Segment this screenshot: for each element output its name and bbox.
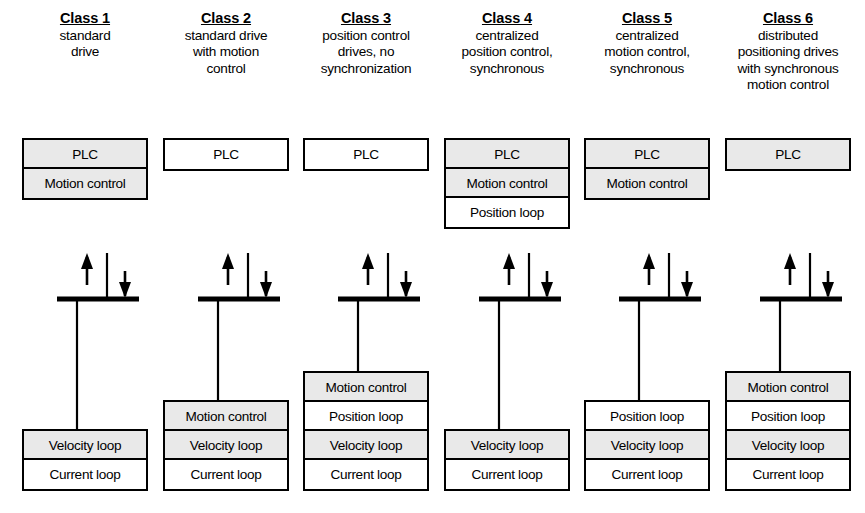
class-3-description-line: drives, no (296, 44, 436, 61)
up-arrow-head (784, 253, 796, 269)
class-1-top-stack-cell: Motion control (24, 169, 146, 198)
down-arrow-head (119, 282, 131, 298)
class-6-description: distributedpositioning driveswith synchr… (718, 28, 858, 94)
class-3-description-line: position control (296, 28, 436, 45)
class-4-bottom-stack-cell: Velocity loop (446, 431, 568, 460)
class-1-description-line: drive (15, 44, 155, 61)
class-1-bottom-stack: Velocity loopCurrent loop (22, 429, 148, 491)
class-5-description-line: synchronous (577, 61, 717, 78)
up-arrow-head (643, 253, 655, 269)
class-2-description-line: with motion (156, 44, 296, 61)
class-5-top-stack-cell: PLC (586, 140, 708, 169)
class-1-description: standarddrive (15, 28, 155, 61)
class-1-header: Class 1standarddrive (15, 10, 155, 61)
class-6-header: Class 6distributedpositioning driveswith… (718, 10, 858, 94)
class-4-description-line: centralized (437, 28, 577, 45)
class-2-header: Class 2standard drivewith motioncontrol (156, 10, 296, 77)
class-6-top-stack-cell: PLC (727, 140, 849, 169)
down-arrow-head (822, 282, 834, 298)
class-6-description-line: with synchronous (718, 61, 858, 78)
down-arrow-head (260, 282, 272, 298)
class-4-bottom-stack-cell: Current loop (446, 460, 568, 489)
class-2-fieldbus-connection-symbol (163, 253, 289, 363)
class-2-top-stack-cell: PLC (165, 140, 287, 169)
class-1-description-line: standard (15, 28, 155, 45)
class-1-top-stack: PLCMotion control (22, 138, 148, 200)
class-4-top-stack: PLCMotion controlPosition loop (444, 138, 570, 229)
class-2-bottom-stack-cell: Current loop (165, 460, 287, 489)
class-6-bottom-stack-cell: Current loop (727, 460, 849, 489)
class-3-bottom-stack-cell: Position loop (305, 402, 427, 431)
class-5-description-line: motion control, (577, 44, 717, 61)
class-2-title: Class 2 (201, 10, 251, 27)
class-5-header: Class 5centralizedmotion control,synchro… (577, 10, 717, 77)
class-6-bottom-stack-cell: Position loop (727, 402, 849, 431)
class-4-description: centralizedposition control,synchronous (437, 28, 577, 78)
class-3-top-stack: PLC (303, 138, 429, 171)
class-5-fieldbus-connection-symbol (584, 253, 710, 363)
class-4-fieldbus-connection-symbol (444, 253, 570, 363)
down-arrow-head (541, 282, 553, 298)
class-6-title: Class 6 (763, 10, 813, 27)
class-4-top-stack-cell: Position loop (446, 198, 568, 227)
class-3-top-stack-cell: PLC (305, 140, 427, 169)
class-6-bottom-stack: Motion controlPosition loopVelocity loop… (725, 371, 851, 491)
class-1-top-stack-cell: PLC (24, 140, 146, 169)
up-arrow-head (222, 253, 234, 269)
class-4-top-stack-cell: Motion control (446, 169, 568, 198)
class-2-description: standard drivewith motioncontrol (156, 28, 296, 78)
class-6-fieldbus-connection-symbol (725, 253, 851, 363)
up-arrow-head (503, 253, 515, 269)
class-2-top-stack: PLC (163, 138, 289, 171)
class-3-bottom-stack: Motion controlPosition loopVelocity loop… (303, 371, 429, 491)
class-3-bottom-stack-cell: Current loop (305, 460, 427, 489)
class-5-bottom-stack-cell: Current loop (586, 460, 708, 489)
column-class-5: Class 5centralizedmotion control,synchro… (577, 0, 717, 513)
motion-control-classes-diagram: Class 1standarddrivePLCMotion controlVel… (0, 0, 865, 513)
down-arrow-head (681, 282, 693, 298)
class-6-bottom-stack-cell: Velocity loop (727, 431, 849, 460)
class-5-description: centralizedmotion control,synchronous (577, 28, 717, 78)
class-2-bottom-stack-cell: Velocity loop (165, 431, 287, 460)
up-arrow-head (81, 253, 93, 269)
class-4-description-line: position control, (437, 44, 577, 61)
class-6-description-line: distributed (718, 28, 858, 45)
up-arrow-head (362, 253, 374, 269)
class-5-description-line: centralized (577, 28, 717, 45)
class-1-bottom-stack-cell: Velocity loop (24, 431, 146, 460)
class-2-description-line: control (156, 61, 296, 78)
class-5-bottom-stack-cell: Position loop (586, 402, 708, 431)
class-3-bottom-stack-cell: Motion control (305, 373, 427, 402)
class-3-fieldbus-connection-symbol (303, 253, 429, 363)
column-class-3: Class 3position controldrives, nosynchro… (296, 0, 436, 513)
column-class-6: Class 6distributedpositioning driveswith… (718, 0, 858, 513)
class-3-header: Class 3position controldrives, nosynchro… (296, 10, 436, 77)
column-class-4: Class 4centralizedposition control,synch… (437, 0, 577, 513)
class-1-title: Class 1 (60, 10, 110, 27)
class-4-header: Class 4centralizedposition control,synch… (437, 10, 577, 77)
class-6-description-line: motion control (718, 77, 858, 94)
class-6-top-stack: PLC (725, 138, 851, 171)
class-3-description: position controldrives, nosynchronizatio… (296, 28, 436, 78)
down-arrow-head (400, 282, 412, 298)
class-2-description-line: standard drive (156, 28, 296, 45)
class-5-bottom-stack: Position loopVelocity loopCurrent loop (584, 400, 710, 491)
class-4-top-stack-cell: PLC (446, 140, 568, 169)
class-4-bottom-stack: Velocity loopCurrent loop (444, 429, 570, 491)
class-3-bottom-stack-cell: Velocity loop (305, 431, 427, 460)
class-5-top-stack: PLCMotion control (584, 138, 710, 200)
class-5-bottom-stack-cell: Velocity loop (586, 431, 708, 460)
class-1-fieldbus-connection-symbol (22, 253, 148, 363)
class-2-bottom-stack: Motion controlVelocity loopCurrent loop (163, 400, 289, 491)
class-4-title: Class 4 (482, 10, 532, 27)
class-5-title: Class 5 (622, 10, 672, 27)
class-3-title: Class 3 (341, 10, 391, 27)
class-6-description-line: positioning drives (718, 44, 858, 61)
class-2-bottom-stack-cell: Motion control (165, 402, 287, 431)
class-4-description-line: synchronous (437, 61, 577, 78)
class-5-top-stack-cell: Motion control (586, 169, 708, 198)
class-1-bottom-stack-cell: Current loop (24, 460, 146, 489)
class-3-description-line: synchronization (296, 61, 436, 78)
class-6-bottom-stack-cell: Motion control (727, 373, 849, 402)
column-class-2: Class 2standard drivewith motioncontrolP… (156, 0, 296, 513)
